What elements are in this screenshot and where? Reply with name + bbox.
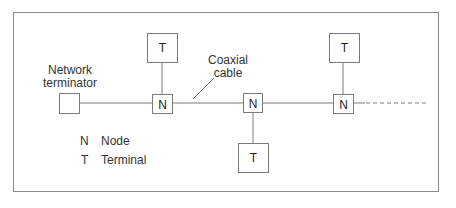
terminal-label-t3: T bbox=[341, 41, 349, 55]
terminal-label-t1: T bbox=[159, 41, 167, 55]
node-label-n2: N bbox=[249, 97, 258, 111]
node-label-n3: N bbox=[339, 98, 348, 112]
network-terminator-label: Network terminator bbox=[30, 64, 110, 90]
legend-symbol-node: N bbox=[80, 135, 89, 148]
terminal-label-t2: T bbox=[250, 151, 258, 165]
node-label-n1: N bbox=[158, 98, 167, 112]
coaxial-cable-label: Coaxial cable bbox=[198, 54, 258, 80]
legend-symbol-terminal: T bbox=[81, 154, 88, 167]
legend-meaning-node: Node bbox=[101, 135, 130, 148]
coaxial-cable-pointer bbox=[193, 78, 214, 99]
legend-meaning-terminal: Terminal bbox=[101, 154, 146, 167]
label-line: terminator bbox=[30, 77, 110, 90]
bus-network-diagram: N N N T T T bbox=[0, 0, 456, 208]
network-terminator-box bbox=[60, 94, 80, 114]
label-line: cable bbox=[198, 67, 258, 80]
